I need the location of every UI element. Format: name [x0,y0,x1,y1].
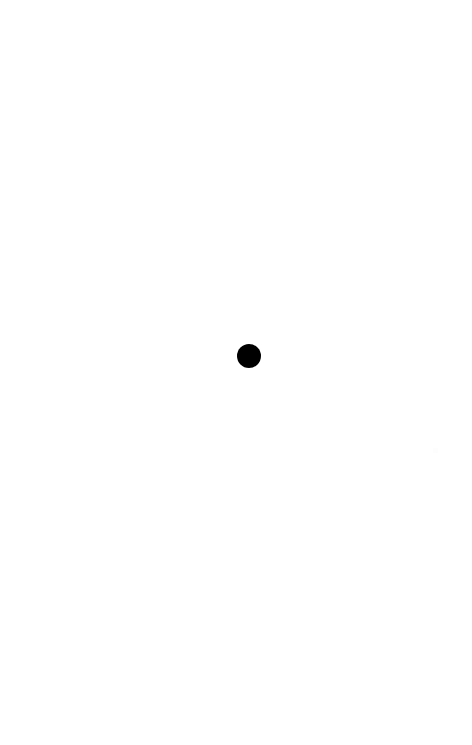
speck-label: Faint light-gray speck [432,447,433,448]
dot-canvas: Blank white canvas with a single centere… [0,0,472,745]
faint-speck-artifact: Faint light-gray speck [433,448,438,453]
dot-label: Black filled circle [236,343,237,344]
filled-circle-dot[interactable]: Black filled circle [237,344,261,368]
